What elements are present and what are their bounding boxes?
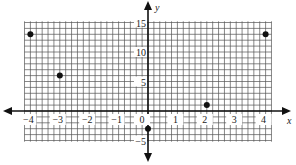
x-axis-right-arrow-icon [282, 107, 291, 115]
scatter-chart: −4−3−2−101234 −551015 x y [0, 0, 296, 165]
y-tick-label: 5 [141, 77, 146, 88]
y-tick-label: −5 [135, 136, 146, 147]
x-tick-label: 3 [232, 114, 237, 125]
data-point [263, 31, 269, 37]
x-tick-label: 1 [173, 114, 178, 125]
data-point [145, 126, 151, 132]
x-tick-label: −3 [52, 114, 63, 125]
x-tick-label: 2 [202, 114, 207, 125]
x-axis-left-arrow-icon [3, 107, 12, 115]
data-point [204, 102, 210, 108]
data-point [57, 73, 63, 79]
x-tick-label: 4 [261, 114, 266, 125]
x-axis-label: x [286, 115, 292, 126]
y-tick-label: 15 [136, 18, 146, 29]
x-tick-label: −4 [23, 114, 34, 125]
y-axis-up-arrow-icon [144, 1, 152, 10]
y-axis-label: y [154, 2, 160, 13]
y-tick-label: 10 [136, 47, 146, 58]
data-point [27, 31, 33, 37]
x-tick-label: −2 [82, 114, 93, 125]
x-tick-label: 0 [140, 114, 145, 125]
x-tick-label: −1 [111, 114, 122, 125]
y-axis-down-arrow-icon [144, 153, 152, 162]
x-tick-labels: −4−3−2−101234 [20, 114, 271, 125]
